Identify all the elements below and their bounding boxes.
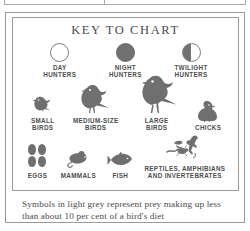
filled-circle-icon [116,43,135,62]
legend-item-fish: FISH [107,141,133,179]
small-bird-icon [30,79,56,115]
reptiles-invertebrates-icon [165,134,205,162]
medium-bird-icon [77,79,114,115]
legend-item-twilight-hunters: TWILIGHT HUNTERS [174,43,207,79]
legend-item-small-birds: SMALL BIRDS [30,79,56,132]
legend-item-day-hunters: DAY HUNTERS [43,43,76,79]
key-title: KEY TO CHART [13,23,238,38]
hunter-legend-row: DAY HUNTERS NIGHT HUNTERS TWILIGHT HUNTE… [13,43,238,79]
legend-label-eggs: EGGS [28,172,48,179]
legend-item-mammals: MAMMALS [61,141,96,179]
legend-label-fish: FISH [112,172,128,179]
key-panel: KEY TO CHART DAY HUNTERS NIGHT HUNTERS T [12,17,239,191]
prey-birds-row: SMALL BIRDS MEDIUM-SIZE BIRDS [13,86,238,132]
clipped-panel-divider [104,0,105,4]
legend-label-mammals: MAMMALS [61,172,96,179]
legend-label-large-birds: LARGE BIRDS [145,117,169,132]
chick-icon [196,86,220,122]
legend-item-large-birds: LARGE BIRDS [136,79,178,132]
large-bird-icon [136,79,178,115]
legend-label-reptiles: REPTILES, AMPHIBIANS AND INVERTEBRATES [144,165,225,180]
figure-caption: Symbols in light grey represent prey mak… [22,199,227,222]
mouse-icon [65,141,91,169]
half-filled-circle-icon [182,43,201,62]
prey-other-row: EGGS MAMMALS [13,138,238,180]
figure-frame: KEY TO CHART DAY HUNTERS NIGHT HUNTERS T [5,12,245,223]
clipped-panel-above [4,0,246,5]
legend-label-twilight-hunters: TWILIGHT HUNTERS [174,64,207,79]
legend-item-night-hunters: NIGHT HUNTERS [109,43,142,79]
legend-item-chicks: CHICKS [195,86,221,131]
legend-item-eggs: EGGS [26,141,50,179]
legend-item-reptiles: REPTILES, AMPHIBIANS AND INVERTEBRATES [144,134,225,180]
eggs-icon [26,141,50,169]
legend-label-day-hunters: DAY HUNTERS [43,64,76,79]
legend-label-chicks: CHICKS [195,124,221,131]
legend-item-medium-birds: MEDIUM-SIZE BIRDS [73,79,118,132]
legend-label-small-birds: SMALL BIRDS [31,117,54,132]
legend-label-medium-birds: MEDIUM-SIZE BIRDS [73,117,118,132]
fish-icon [107,141,133,169]
open-circle-icon [50,43,69,62]
